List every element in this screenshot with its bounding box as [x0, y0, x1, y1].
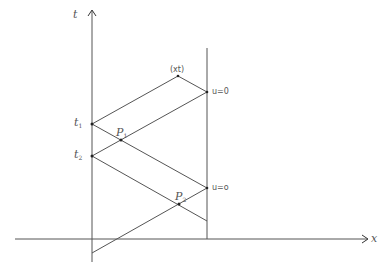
- characteristic-t1-to-xt: [92, 76, 178, 124]
- t2-subscript: 2: [78, 154, 82, 161]
- characteristic-bottom-to-u-lower: [92, 188, 207, 253]
- characteristic-t2-down: [92, 156, 207, 221]
- point-u-lower: [206, 187, 209, 190]
- u-lower-label: u=o: [212, 184, 229, 192]
- p2-subscript: 2: [182, 196, 186, 203]
- characteristic-xt-to-u-upper: [178, 76, 207, 92]
- t1-label: t1: [74, 117, 82, 129]
- p1-label: P1: [116, 127, 127, 139]
- t-axis-label: t: [73, 9, 77, 20]
- xt-point-label: (xt): [170, 66, 184, 74]
- point-t2: [91, 155, 94, 158]
- characteristic-t2-to-u-upper: [92, 92, 207, 156]
- diagram-lines: [0, 0, 389, 273]
- t1-subscript: 1: [78, 122, 82, 129]
- p2-label: P2: [175, 191, 186, 203]
- p1-subscript: 1: [123, 132, 127, 139]
- u-upper-label: u=0: [212, 88, 229, 96]
- point-t1: [91, 123, 94, 126]
- characteristics-diagram: t x t1 t2 P1 P2 (xt) u=0 u=o: [0, 0, 389, 273]
- point-xt: [177, 75, 180, 78]
- t2-label: t2: [74, 149, 82, 161]
- characteristic-t1-to-u-lower: [92, 124, 207, 188]
- x-axis-label: x: [371, 233, 377, 244]
- point-u-upper: [206, 91, 209, 94]
